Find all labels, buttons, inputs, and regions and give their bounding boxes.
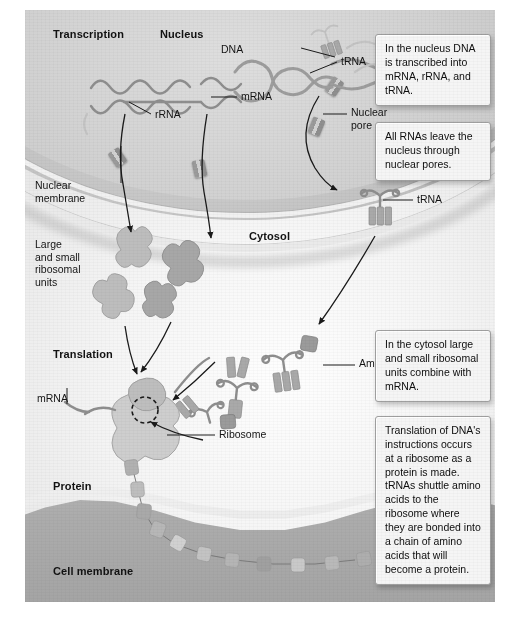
callout-translation: Translation of DNA's instructions occurs… — [375, 416, 491, 585]
callout-nucleus-transcription: In the nucleus DNA is transcribed into m… — [375, 34, 491, 106]
label-protein: Protein — [53, 480, 92, 493]
label-translation: Translation — [53, 348, 113, 361]
amino-acid-icon — [220, 414, 236, 429]
trna-amino-acid-graphic — [214, 355, 261, 420]
arrow-mrna-into-ribosome — [173, 362, 215, 400]
label-cell-membrane: Cell membrane — [53, 565, 133, 578]
label-nucleus: Nucleus — [160, 28, 204, 41]
trna-exiting-graphic — [361, 190, 399, 225]
arrow-trna-out-of-pore — [306, 96, 337, 190]
biology-diagram-transcription-translation: Transcription Nucleus Cytosol Translatio… — [0, 0, 528, 618]
arrow-mrna-to-cytosol — [202, 114, 211, 238]
label-mrna-translation: mRNA — [37, 392, 68, 405]
callout-nuclear-pores: All RNAs leave the nucleus through nucle… — [375, 122, 491, 181]
label-ribosomal-units: Large and small ribosomal units — [35, 238, 81, 288]
callout-cytosol-assembly: In the cytosol large and small ribosomal… — [375, 330, 491, 402]
ribosomal-subunit-graphic — [160, 238, 207, 288]
label-transcription: Transcription — [53, 28, 124, 41]
illustration-plate: Transcription Nucleus Cytosol Translatio… — [25, 10, 495, 602]
label-trna-nucleus: tRNA — [341, 55, 366, 68]
label-trna-cytosol: tRNA — [417, 193, 442, 206]
ribosomal-subunit-graphic — [114, 224, 154, 270]
rrna-strand-graphic — [84, 81, 201, 135]
protein-chain-graphic — [124, 459, 372, 572]
arrow-subunit-to-ribosome — [141, 322, 171, 372]
label-ribosome: Ribosome — [219, 428, 266, 441]
label-nuclear-membrane: Nuclear membrane — [35, 179, 85, 204]
arrow-trna-to-complex — [319, 236, 375, 324]
amino-acid-icon — [300, 335, 318, 353]
label-mrna-nucleus: mRNA — [241, 90, 272, 103]
label-rrna: rRNA — [155, 108, 181, 121]
label-cytosol: Cytosol — [249, 230, 290, 243]
arrow-rrna-to-subunits — [120, 114, 131, 232]
label-dna: DNA — [221, 43, 243, 56]
leader-trna-nucleus — [310, 62, 337, 73]
ribosomal-subunit-graphic — [88, 269, 139, 322]
trna-amino-acid-graphic — [260, 333, 325, 394]
arrow-subunit-to-ribosome — [125, 326, 137, 374]
